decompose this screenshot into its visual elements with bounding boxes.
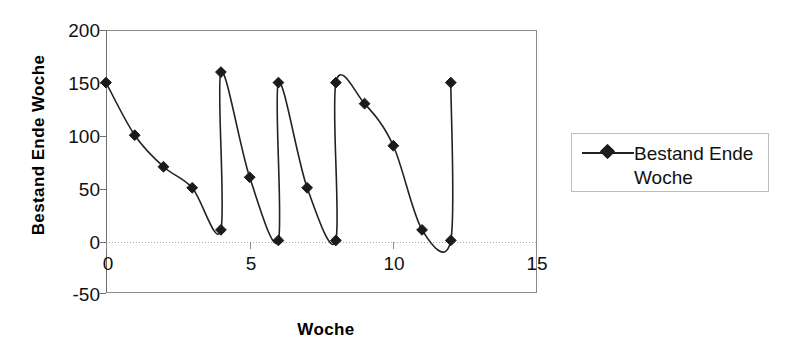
chart-legend: Bestand Ende Woche <box>571 133 769 192</box>
x-tick-mark-15 <box>536 242 537 249</box>
y-tick-label--50: -50 <box>44 285 100 304</box>
x-tick-mark-10 <box>393 242 394 249</box>
x-tick-label-15: 15 <box>517 254 557 273</box>
legend-label-line1: Bestand Ende <box>634 143 753 164</box>
zero-gridline <box>106 242 537 243</box>
chart-plot-container: 200 150 100 50 0 -50 0 5 10 15 Wo <box>0 0 560 364</box>
diamond-marker-icon <box>582 142 634 164</box>
y-axis-title: Bestand Ende Woche <box>29 20 49 270</box>
y-tick-label-200: 200 <box>44 21 100 40</box>
legend-label-line2: Woche <box>634 167 693 188</box>
plot-frame <box>106 30 537 293</box>
x-tick-label-10: 10 <box>374 254 414 273</box>
y-tick-label-150: 150 <box>44 74 100 93</box>
legend-entry: Bestand Ende Woche <box>582 142 764 190</box>
legend-label: Bestand Ende Woche <box>634 142 764 190</box>
chart-screenshot: 200 150 100 50 0 -50 0 5 10 15 Wo <box>0 0 788 364</box>
y-tick-mark--50 <box>100 293 106 294</box>
y-tick-label-50: 50 <box>44 180 100 199</box>
x-tick-label-5: 5 <box>231 254 271 273</box>
x-axis-title: Woche <box>236 320 416 340</box>
x-tick-mark-0 <box>106 242 107 249</box>
y-tick-label-0: 0 <box>44 233 100 252</box>
x-tick-label-0: 0 <box>88 254 128 273</box>
y-tick-label-100: 100 <box>44 127 100 146</box>
x-tick-mark-5 <box>250 242 251 249</box>
